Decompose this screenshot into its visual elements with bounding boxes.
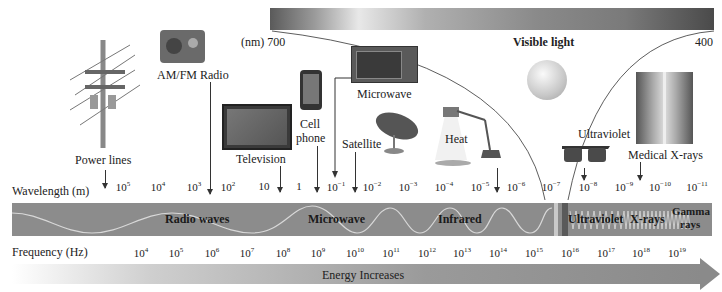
- radio-icon: [160, 30, 205, 63]
- television-label: Television: [236, 152, 286, 167]
- ultraviolet-label: Ultraviolet: [578, 127, 630, 142]
- band-gamma-rays-line1: Gamma: [672, 205, 710, 217]
- band-radio-waves: Radio waves: [165, 212, 229, 227]
- frequency-tick: 1013: [453, 246, 471, 259]
- wavelength-tick: 10−1: [327, 180, 345, 193]
- frequency-tick: 1010: [346, 246, 364, 259]
- microwave-arrow: [330, 75, 355, 180]
- frequency-tick: 1011: [382, 246, 400, 259]
- power-lines-arrow: [105, 170, 106, 188]
- visible-light-700-label: (nm) 700: [241, 35, 285, 50]
- radio-arrow: [210, 82, 211, 194]
- wavelength-tick: 10: [259, 180, 270, 192]
- cell-phone-arrow: [317, 146, 318, 192]
- microwave-icon: [351, 46, 418, 83]
- band-microwave: Microwave: [308, 212, 365, 227]
- wavelength-axis-label: Wavelength (m): [12, 184, 89, 199]
- wavelength-tick: 103: [187, 180, 202, 193]
- light-bulb-icon: [527, 60, 567, 100]
- satellite-label: Satellite: [342, 137, 381, 152]
- power-lines-label: Power lines: [75, 153, 131, 168]
- frequency-tick: 108: [276, 246, 291, 259]
- cell-phone-icon: [300, 70, 322, 110]
- energy-arrow-head: [700, 258, 720, 290]
- power-pole-icon: [70, 40, 140, 150]
- visible-light-label: Visible light: [513, 35, 574, 50]
- wavelength-tick: 10−9: [615, 180, 633, 193]
- wavelength-tick: 10−5: [471, 180, 489, 193]
- medical-x-rays-label: Medical X-rays: [628, 148, 703, 163]
- band-infrared: Infrared: [438, 212, 482, 227]
- television-arrow: [280, 166, 281, 192]
- frequency-tick: 109: [311, 246, 326, 259]
- band-ultraviolet: Ultraviolet: [568, 212, 623, 227]
- wavelength-tick: 1: [296, 180, 302, 192]
- wavelength-tick: 10−10: [649, 180, 671, 193]
- frequency-tick: 1016: [561, 246, 579, 259]
- television-icon: [222, 104, 292, 150]
- band-gamma-rays-line2: rays: [680, 218, 700, 230]
- energy-increases-label: Energy Increases: [322, 268, 404, 283]
- microwave-label: Microwave: [357, 87, 412, 102]
- frequency-tick: 1014: [489, 246, 507, 259]
- wavelength-tick: 10−8: [579, 180, 597, 193]
- wavelength-tick: 10−4: [435, 180, 453, 193]
- visible-light-400-label: 400: [695, 35, 713, 50]
- wavelength-tick: 10−6: [507, 180, 525, 193]
- frequency-tick: 1012: [418, 246, 436, 259]
- chest-x-ray-icon: [636, 72, 693, 144]
- wavelength-tick: 10−11: [686, 180, 708, 193]
- frequency-tick: 105: [169, 246, 184, 259]
- heat-label: Heat: [445, 132, 468, 147]
- frequency-tick: 1019: [668, 246, 686, 259]
- wavelength-tick: 10−3: [399, 180, 417, 193]
- cell-phone-label-line2: phone: [296, 131, 325, 146]
- wavelength-tick: 104: [151, 180, 166, 193]
- wavelength-tick: 10−7: [542, 180, 560, 193]
- wavelength-tick: 102: [221, 180, 236, 193]
- frequency-tick: 1015: [525, 246, 543, 259]
- frequency-tick: 104: [134, 246, 149, 259]
- ultraviolet-arrow: [584, 168, 585, 180]
- wavelength-tick: 10−2: [363, 180, 381, 193]
- am-fm-radio-label: AM/FM Radio: [157, 68, 229, 83]
- wavelength-tick: 105: [116, 180, 131, 193]
- frequency-tick: 107: [240, 246, 255, 259]
- frequency-tick: 1017: [597, 246, 615, 259]
- frequency-tick: 106: [205, 246, 220, 259]
- heat-arrow: [497, 168, 498, 192]
- sunglasses-icon: [560, 143, 615, 168]
- frequency-axis-label: Frequency (Hz): [12, 245, 88, 260]
- x-ray-arrow: [640, 162, 641, 180]
- band-x-rays: X-rays: [630, 212, 665, 227]
- satellite-arrow: [355, 152, 356, 192]
- cell-phone-label-line1: Cell: [300, 117, 320, 132]
- frequency-tick: 1018: [632, 246, 650, 259]
